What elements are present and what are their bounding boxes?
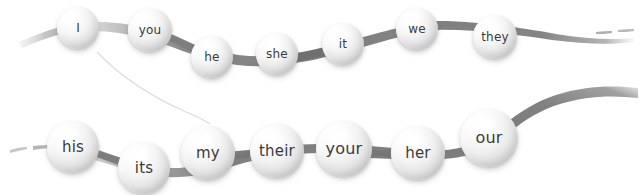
ribbon-top-dash-1: [596, 31, 612, 34]
node-label: my: [196, 146, 220, 161]
node-label: she: [266, 48, 288, 60]
node-label: your: [326, 141, 363, 157]
node-label: our: [475, 130, 502, 146]
node-sphere-his[interactable]: his: [47, 121, 99, 173]
ribbon-top-segment-1: [70, 22, 440, 67]
node-sphere-we[interactable]: we: [396, 8, 438, 50]
node-sphere-i[interactable]: I: [57, 7, 99, 49]
node-label: it: [339, 38, 347, 50]
diagram-canvas: I you he she it we they his its my: [0, 0, 640, 195]
node-sphere-it[interactable]: it: [322, 23, 364, 65]
ribbon-top-dash-2: [618, 29, 634, 32]
node-sphere-you[interactable]: you: [128, 8, 172, 52]
node-label: you: [139, 24, 162, 36]
node-sphere-their[interactable]: their: [250, 124, 304, 178]
node-label: their: [259, 144, 295, 159]
node-sphere-he[interactable]: he: [191, 36, 233, 78]
node-sphere-your[interactable]: your: [316, 121, 372, 177]
node-sphere-they[interactable]: they: [473, 15, 517, 59]
node-sphere-my[interactable]: my: [181, 126, 235, 180]
ribbon-lead-in-bottom-dash-1: [10, 147, 27, 153]
node-label: her: [405, 146, 431, 161]
node-label: his: [62, 140, 84, 155]
node-label: we: [408, 23, 426, 35]
node-sphere-she[interactable]: she: [256, 33, 298, 75]
node-label: its: [135, 161, 153, 176]
node-sphere-her[interactable]: her: [391, 126, 445, 180]
node-sphere-its[interactable]: its: [118, 142, 170, 194]
node-label: they: [481, 31, 509, 43]
node-sphere-our[interactable]: our: [460, 109, 518, 167]
node-label: I: [76, 22, 80, 34]
node-label: he: [204, 51, 219, 63]
